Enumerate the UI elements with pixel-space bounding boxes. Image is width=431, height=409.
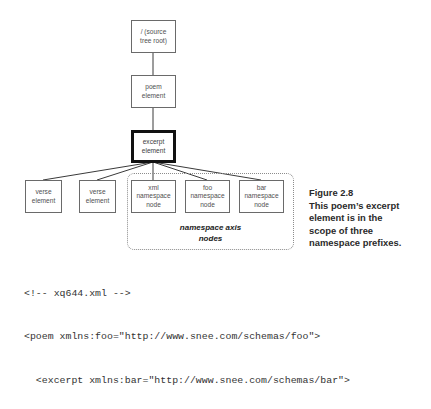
code-line: <excerpt xmlns:bar="http://www.snee.com/… [24,374,350,388]
node-excerpt-element: excerpt element [131,130,176,163]
code-line: <poem xmlns:foo="http://www.snee.com/sch… [24,330,350,344]
caption-line: namespace prefixes. [309,237,429,250]
node-verse-element-1: verse element [25,180,62,213]
node-bar-namespace: bar namespace node [239,180,284,213]
namespace-axis-label: namespace axis nodes [127,222,294,244]
node-xml-namespace: xml namespace node [131,180,176,213]
caption-line: scope of three [309,225,429,238]
code-line: <!-- xq644.xml --> [24,287,350,301]
caption-line: element is in the [309,212,429,225]
caption-title: Figure 2.8 [309,187,429,200]
figure-caption: Figure 2.8 This poem’s excerpt element i… [309,187,429,250]
node-foo-namespace: foo namespace node [185,180,230,213]
node-verse-element-2: verse element [79,180,116,213]
code-listing: <!-- xq644.xml --> <poem xmlns:foo="http… [24,258,350,409]
caption-line: This poem’s excerpt [309,200,429,213]
node-source-tree-root: / (source tree root) [131,20,176,53]
node-poem-element: poem element [131,75,176,108]
